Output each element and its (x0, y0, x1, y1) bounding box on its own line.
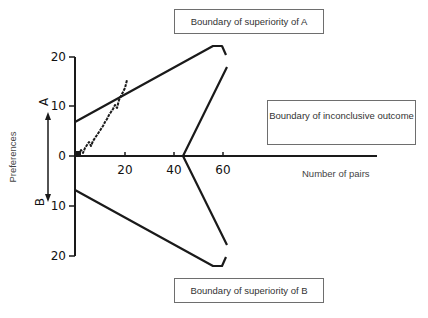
y-tick-label: 0 (58, 149, 66, 163)
arrow-up-icon (45, 112, 51, 120)
boundary-inconclusive-label: Boundary of inconclusive outcome (267, 100, 416, 145)
x-tick-label: 20 (117, 163, 132, 177)
direction-a-label: A (37, 97, 51, 106)
boundary-superiority-a-label: Boundary of superiority of A (174, 9, 324, 34)
y-tick-label: 20 (51, 50, 66, 64)
boundary-superiority-b-label: Boundary of superiority of B (174, 278, 324, 303)
direction-b-label: B (33, 198, 47, 206)
y-axis-label: Preferences (7, 131, 18, 182)
x-axis-label: Number of pairs (302, 168, 370, 179)
boundary-superiority-b-line (75, 190, 226, 266)
y-tick-label: 10 (51, 199, 66, 213)
y-tick-label: 20 (51, 249, 66, 263)
x-tick-label: 40 (166, 163, 181, 177)
path-start-marker (75, 151, 81, 156)
boundary-superiority-a-line (75, 46, 226, 122)
y-tick-label: 10 (51, 99, 66, 113)
x-tick-label: 60 (215, 163, 230, 177)
sequential-chart: 20 10 0 10 20 20 40 60 Number of pairs P… (0, 0, 428, 318)
